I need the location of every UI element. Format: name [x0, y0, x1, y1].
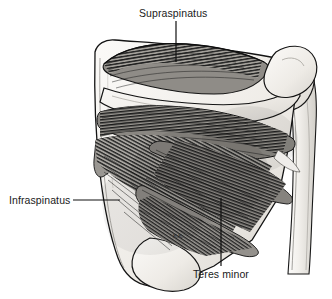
- anatomy-illustration-svg: [0, 0, 332, 299]
- artist-signature: K.K.: [173, 233, 184, 239]
- label-supraspinatus: Supraspinatus: [139, 7, 207, 19]
- label-infraspinatus: Infraspinatus: [9, 194, 70, 206]
- anatomy-figure: Supraspinatus Infraspinatus Teres minor …: [0, 0, 332, 299]
- label-teres-minor: Teres minor: [193, 268, 249, 280]
